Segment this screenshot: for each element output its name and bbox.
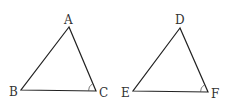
triangle-def: D E F (121, 13, 219, 101)
vertex-label-a: A (63, 13, 73, 27)
angle-c-arc (88, 84, 92, 91)
diagram-canvas: A B C D E F (0, 0, 232, 108)
vertex-label-b: B (9, 85, 18, 99)
triangle-abc-shape (21, 27, 96, 91)
vertex-label-e: E (121, 86, 130, 100)
triangle-def-shape (133, 28, 208, 92)
angle-f-arc (200, 85, 204, 92)
vertex-label-c: C (99, 86, 108, 100)
vertex-label-f: F (211, 87, 219, 101)
vertex-label-d: D (175, 13, 185, 27)
triangle-abc: A B C (9, 13, 108, 100)
